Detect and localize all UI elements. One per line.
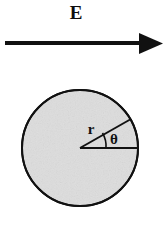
- field-label-E: E: [0, 1, 152, 25]
- angle-label-theta: θ: [110, 131, 118, 147]
- arrow-shaft: [5, 41, 141, 45]
- charged-disk-diagram: r θ: [0, 80, 166, 231]
- physics-diagram-figure: E r θ: [0, 0, 166, 231]
- electric-field-arrow: [0, 30, 166, 60]
- arrow-shaft-group: [5, 33, 163, 54]
- arrow-head-icon: [139, 33, 163, 54]
- radius-label-r: r: [88, 121, 95, 137]
